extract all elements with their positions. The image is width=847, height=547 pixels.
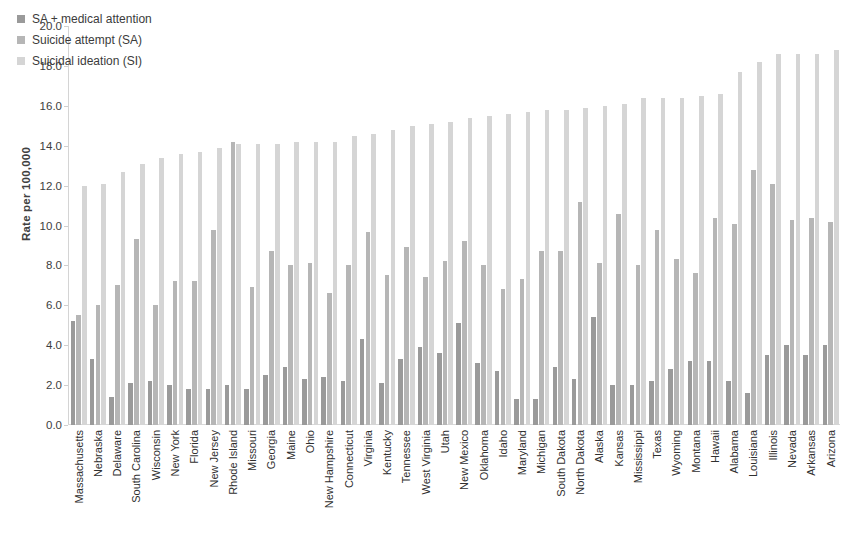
- x-axis-label-cell: Florida: [185, 428, 204, 546]
- bar: [327, 293, 332, 425]
- bar-group: [705, 26, 724, 425]
- bar: [514, 399, 519, 425]
- x-axis-tick-label: Arizona: [825, 430, 836, 467]
- bar: [636, 265, 641, 425]
- x-axis-label-cell: North Dakota: [570, 428, 589, 546]
- bar: [649, 381, 654, 425]
- bar-group: [378, 26, 397, 425]
- bar-group: [725, 26, 744, 425]
- bar: [757, 62, 762, 425]
- x-axis-label-cell: Tennessee: [397, 428, 416, 546]
- x-axis-label-cell: Maine: [281, 428, 300, 546]
- bar: [597, 263, 602, 425]
- legend-item-sa-medical: SA + medical attention: [17, 8, 237, 29]
- bar: [790, 220, 795, 425]
- bar: [803, 355, 808, 425]
- bar: [302, 379, 307, 425]
- x-axis-label-cell: Maryland: [512, 428, 531, 546]
- bar: [352, 136, 357, 425]
- x-axis-tick-label: Illinois: [767, 430, 778, 461]
- x-axis-tick-label: Montana: [690, 430, 701, 473]
- bar: [693, 273, 698, 425]
- x-axis-tick-label: Wisconsin: [150, 430, 161, 480]
- x-axis-label-cell: Arkansas: [802, 428, 821, 546]
- bar: [610, 385, 615, 425]
- bar: [71, 321, 76, 425]
- x-axis-label-cell: Nebraska: [88, 428, 107, 546]
- bar: [360, 339, 365, 425]
- bar: [236, 144, 241, 425]
- bar: [385, 275, 390, 425]
- bar-group: [339, 26, 358, 425]
- x-axis-label-cell: Georgia: [262, 428, 281, 546]
- x-axis-tick-label: Kansas: [613, 430, 624, 467]
- bar: [738, 72, 743, 425]
- bar: [96, 305, 101, 425]
- bar: [391, 130, 396, 425]
- bar: [140, 164, 145, 425]
- x-axis-label-cell: West Virginia: [416, 428, 435, 546]
- bar: [823, 345, 828, 425]
- y-axis-tick-mark: [64, 345, 68, 346]
- bar-group: [108, 26, 127, 425]
- bar: [244, 389, 249, 425]
- bar-group: [512, 26, 531, 425]
- bar: [410, 126, 415, 425]
- x-axis-tick-label: Florida: [189, 430, 200, 464]
- legend-swatch-suicide-attempt: [17, 36, 25, 44]
- y-axis-tick-label: 2.0: [22, 380, 62, 392]
- bar-group: [435, 26, 454, 425]
- bar: [674, 259, 679, 425]
- bar-group: [455, 26, 474, 425]
- x-axis-tick-label: Idaho: [497, 430, 508, 458]
- chart-legend: SA + medical attention Suicide attempt (…: [17, 8, 237, 71]
- x-axis-tick-label: New York: [170, 430, 181, 476]
- x-axis-label-cell: Arizona: [821, 428, 840, 546]
- bar: [796, 54, 801, 425]
- legend-item-suicidal-ideation: Suicidal ideation (SI): [17, 50, 237, 71]
- y-axis-tick-label: 16.0: [22, 101, 62, 113]
- bar: [308, 263, 313, 425]
- bar-group: [667, 26, 686, 425]
- x-axis-tick-label: Hawaii: [709, 430, 720, 463]
- bar-group: [474, 26, 493, 425]
- x-axis-label-cell: Mississippi: [628, 428, 647, 546]
- x-axis-tick-label: Mississippi: [632, 430, 643, 483]
- bar: [115, 285, 120, 425]
- bar: [333, 142, 338, 425]
- bar: [641, 98, 646, 425]
- bar: [250, 287, 255, 425]
- bar-group: [609, 26, 628, 425]
- bar: [321, 377, 326, 425]
- x-axis-label-cell: South Dakota: [551, 428, 570, 546]
- bar-group: [69, 26, 88, 425]
- bar: [583, 108, 588, 425]
- bar-group: [127, 26, 146, 425]
- x-axis-tick-label: Missouri: [247, 430, 258, 471]
- bar: [443, 261, 448, 425]
- x-axis-tick-label: Arkansas: [806, 430, 817, 476]
- x-axis-label-cell: Wyoming: [667, 428, 686, 546]
- y-axis-tick-mark: [64, 385, 68, 386]
- x-axis-label-cell: Montana: [686, 428, 705, 546]
- bar: [655, 230, 660, 426]
- bar: [834, 50, 839, 425]
- x-axis-tick-label: Ohio: [305, 430, 316, 453]
- bar: [398, 359, 403, 425]
- bar: [572, 379, 577, 425]
- plot-area: 20.018.016.014.012.010.08.06.04.02.00.0: [68, 26, 840, 425]
- y-axis-tick-mark: [64, 265, 68, 266]
- x-axis-label-cell: Hawaii: [705, 428, 724, 546]
- x-axis-tick-label: Maine: [285, 430, 296, 460]
- x-axis-label-cell: South Carolina: [127, 428, 146, 546]
- bar: [134, 239, 139, 425]
- legend-label-suicidal-ideation: Suicidal ideation (SI): [32, 54, 142, 68]
- bar: [462, 241, 467, 425]
- bar: [173, 281, 178, 425]
- bar: [564, 110, 569, 425]
- x-axis-tick-label: Oklahoma: [478, 430, 489, 480]
- bar: [341, 381, 346, 425]
- bar-group: [281, 26, 300, 425]
- bar: [622, 104, 627, 425]
- bar: [256, 144, 261, 425]
